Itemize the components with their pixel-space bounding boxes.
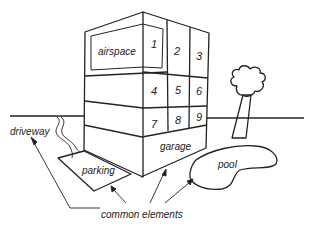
unit-6: 6	[196, 85, 203, 97]
column-line	[189, 27, 190, 128]
arrow-to-garage	[150, 173, 164, 203]
label-airspace: airspace	[98, 46, 136, 57]
unit-8: 8	[175, 114, 182, 126]
unit-4: 4	[151, 85, 157, 97]
label-common-elements: common elements	[101, 209, 183, 220]
condominium-diagram: airspace 1 2 3 4 5 6 7 8 9 garage parkin…	[0, 0, 312, 229]
label-driveway: driveway	[10, 126, 50, 137]
driveway-path	[61, 117, 80, 152]
unit-1: 1	[151, 38, 157, 50]
unit-5: 5	[175, 84, 182, 96]
diagram-canvas: airspace 1 2 3 4 5 6 7 8 9 garage parkin…	[0, 0, 312, 229]
arrowhead	[162, 169, 166, 176]
arrowhead	[31, 137, 37, 145]
tree-canopy	[231, 66, 265, 96]
unit-2: 2	[173, 45, 180, 57]
building-left-face	[84, 12, 143, 177]
unit-3: 3	[196, 50, 203, 62]
unit-9: 9	[196, 111, 202, 123]
label-pool: pool	[217, 159, 238, 170]
arrow-to-parking	[113, 189, 126, 203]
unit-7: 7	[151, 118, 158, 130]
floor-line	[143, 106, 207, 108]
label-garage: garage	[160, 141, 192, 152]
floor-line	[143, 72, 208, 78]
column-line	[167, 20, 168, 131]
label-parking: parking	[81, 165, 115, 176]
floor-line	[85, 101, 143, 108]
arrow-to-pool	[165, 182, 190, 203]
floor-line	[84, 125, 142, 137]
tree-trunk	[232, 95, 251, 138]
